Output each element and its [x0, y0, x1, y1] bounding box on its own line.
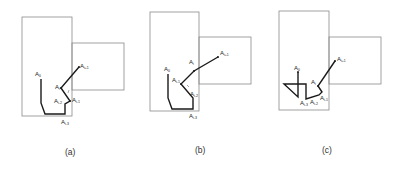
- panel-a: A0 Ai Ai+1 Ai-1 Ai-2 Ai-3 (a): [22, 17, 124, 157]
- joint-aim1: [180, 83, 182, 85]
- joint-ai1: [217, 56, 219, 58]
- figure-canvas: A0 Ai Ai+1 Ai-1 Ai-2 Ai-3 (a) A0 Ai Ai+1…: [0, 0, 400, 171]
- label-ai1: Ai+1: [80, 63, 89, 70]
- label-aim3: Ai-3: [300, 100, 308, 107]
- label-a0: A0: [294, 65, 300, 72]
- label-aim2: Ai-2: [190, 91, 198, 98]
- label-aim3: Ai-3: [189, 113, 197, 120]
- label-ai: Ai: [311, 79, 316, 86]
- label-aim3: Ai-3: [61, 119, 69, 126]
- label-ai1: Ai+1: [337, 56, 346, 63]
- joint-ai: [193, 70, 195, 72]
- caption-b: (b): [195, 145, 206, 155]
- label-a0: A0: [35, 71, 41, 78]
- label-ai1: Ai+1: [220, 50, 229, 57]
- rotation-arrow-icon: [187, 85, 189, 87]
- right-region-box: [199, 37, 251, 84]
- label-ai: Ai: [189, 59, 194, 66]
- label-aim2: Ai-2: [54, 98, 62, 105]
- left-region-box: [22, 17, 72, 116]
- link-chain: [41, 67, 79, 114]
- rotation-arrow-icon: [68, 90, 69, 93]
- joint-ai1: [334, 60, 336, 62]
- label-a0: A0: [164, 66, 170, 73]
- joint-aim1: [69, 100, 71, 102]
- label-aim1: Ai-1: [172, 77, 180, 84]
- panel-c: A0 Ai Ai+1 Ai-1 Ai-2 Ai-3 (c): [279, 11, 381, 155]
- panel-b: A0 Ai Ai+1 Ai-1 Ai-2 Ai-3 (b): [150, 12, 251, 155]
- link-chain: [284, 61, 335, 99]
- joint-ai: [317, 85, 319, 87]
- joint-ai: [60, 87, 62, 89]
- label-ai: Ai: [55, 84, 60, 91]
- label-aim1: Ai-1: [72, 97, 80, 104]
- label-aim1: Ai-1: [320, 95, 328, 102]
- caption-a: (a): [65, 147, 76, 157]
- caption-c: (c): [322, 145, 332, 155]
- label-aim2: Ai-2: [310, 99, 318, 106]
